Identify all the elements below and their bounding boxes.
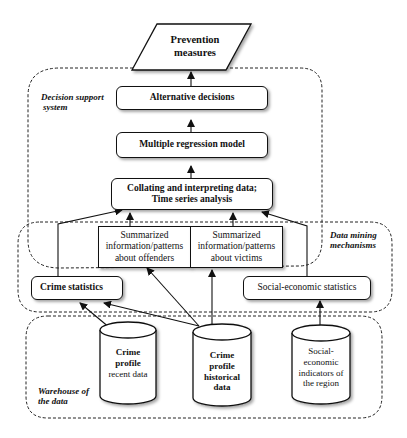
offenders-label-line3: about offenders [115, 253, 174, 264]
offenders-label-line1: Summarized [120, 230, 168, 241]
historical-data-node: Crime profile historical data [193, 350, 251, 393]
collating-label-line1: Collating and interpreting data; [127, 183, 257, 194]
socio-indicators-label-line3: indicators of [290, 368, 352, 379]
socio-indicators-label-line1: Social- [290, 346, 352, 357]
decision-support-label-line1: Decision support [41, 92, 104, 102]
victims-label-line2: information/patterns [198, 241, 276, 252]
crime-statistics-label: Crime statistics [40, 282, 103, 293]
recent-data-node: Crime profile recent data [100, 347, 156, 379]
warehouse-label-line2: the data [38, 396, 89, 406]
historical-data-label-line2: profile [193, 361, 251, 372]
data-mining-label-line1: Data mining [330, 230, 377, 240]
prevention-measures-node: Prevention measures [150, 33, 240, 59]
socio-economic-statistics-node: Social-economic statistics [243, 276, 371, 300]
collating-node: Collating and interpreting data; Time se… [111, 178, 273, 210]
historical-data-label-line3: historical [193, 372, 251, 383]
decision-support-region-label: Decision support system [41, 92, 104, 113]
socio-economic-statistics-label: Social-economic statistics [258, 282, 357, 293]
prevention-label-line2: measures [150, 46, 240, 59]
recent-data-label-line2: profile [100, 358, 156, 369]
victims-patterns-node: Summarized information/patterns about vi… [190, 226, 283, 268]
warehouse-region-label: Warehouse of the data [38, 386, 89, 407]
recent-data-label-line1: Crime [100, 347, 156, 358]
recent-data-label-line3: recent data [100, 369, 156, 380]
offenders-patterns-node: Summarized information/patterns about of… [98, 226, 191, 268]
historical-data-label-line1: Crime [193, 350, 251, 361]
decision-support-label-line2: system [41, 102, 104, 112]
offenders-label-line2: information/patterns [106, 241, 184, 252]
historical-data-label-line4: data [193, 382, 251, 393]
warehouse-label-line1: Warehouse of [38, 386, 89, 396]
socio-indicators-node: Social- economic indicators of the regio… [290, 346, 352, 389]
alternative-decisions-label: Alternative decisions [150, 92, 235, 103]
victims-label-line1: Summarized [212, 230, 260, 241]
socio-indicators-label-line4: the region [290, 378, 352, 389]
multiple-regression-label: Multiple regression model [139, 139, 245, 150]
crime-statistics-node: Crime statistics [31, 276, 123, 300]
multiple-regression-node: Multiple regression model [116, 132, 268, 158]
prevention-label-line1: Prevention [150, 33, 240, 46]
socio-indicators-label-line2: economic [290, 357, 352, 368]
victims-label-line3: about victims [211, 253, 262, 264]
collating-label-line2: Time series analysis [152, 194, 233, 205]
data-mining-label-line2: mechanisms [330, 240, 377, 250]
data-mining-region-label: Data mining mechanisms [330, 230, 377, 251]
alternative-decisions-node: Alternative decisions [116, 86, 268, 110]
